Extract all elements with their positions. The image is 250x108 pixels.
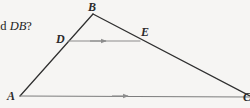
- vertex-label-c: C: [243, 91, 250, 103]
- segment-bc: [93, 14, 250, 97]
- segment-ac: [20, 96, 250, 97]
- vertex-label-d: D: [56, 33, 65, 45]
- question-text-fragment: nd DB?: [0, 20, 32, 33]
- geometry-figure: nd DB? B D E A C: [0, 0, 250, 108]
- vertex-label-b: B: [88, 1, 96, 13]
- question-tail: ?: [26, 19, 32, 33]
- question-segment-name: DB: [10, 19, 27, 33]
- vertex-label-e: E: [141, 26, 149, 38]
- triangle-diagram: [0, 0, 250, 108]
- vertex-label-a: A: [7, 90, 15, 102]
- question-lead: nd: [0, 19, 10, 33]
